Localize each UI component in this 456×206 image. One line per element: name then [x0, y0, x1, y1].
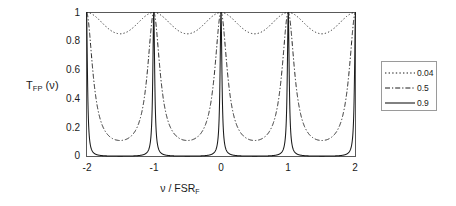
curve-0-9: [87, 13, 356, 157]
data-curves: [87, 13, 356, 157]
legend-swatch-dotted-icon: [385, 68, 415, 78]
legend-swatch-dashdot-icon: [385, 83, 415, 93]
legend-label-2: 0.9: [417, 99, 429, 108]
legend: 0.04 0.5 0.9: [381, 61, 437, 111]
legend-label-1: 0.5: [417, 84, 429, 93]
legend-entry-2[interactable]: 0.9: [382, 96, 438, 110]
fabry-perot-transmission-figure: TFP (ν) 1 0.8 0.6 0.4 0.2 0 -2 -1 0 1 2 …: [0, 0, 456, 206]
legend-swatch-solid-icon: [385, 98, 415, 108]
legend-entry-0[interactable]: 0.04: [382, 66, 438, 80]
legend-entry-1[interactable]: 0.5: [382, 81, 438, 95]
legend-label-0: 0.04: [417, 69, 434, 78]
